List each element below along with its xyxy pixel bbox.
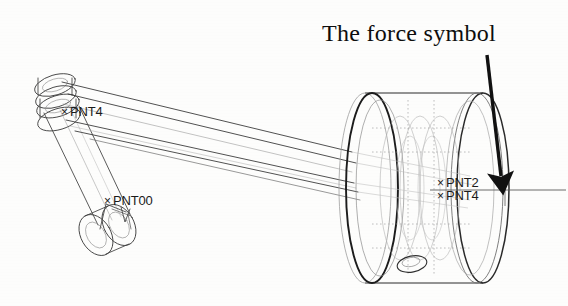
figure-canvas: The force symbol × PNT4 × PNT00 × PNT2 ×… [0,0,568,306]
force-arrow [487,55,501,176]
layer-linkage-arm [32,69,360,261]
drum-left-rim [339,93,404,283]
pnt4-left-marker: × [61,105,68,119]
pnt4-right-marker: × [437,189,444,203]
pnt2-right-marker: × [437,176,444,190]
connecting-rods [62,82,360,200]
pnt00-label: PNT00 [113,193,152,208]
drum-bottom-boss [396,253,429,274]
force-symbol-title: The force symbol [322,20,496,47]
pnt4-right-label: PNT4 [446,188,478,203]
layer-drum-assembly [339,93,509,283]
pnt00-marker: × [104,194,111,208]
pnt4-left-label: PNT4 [70,104,102,119]
